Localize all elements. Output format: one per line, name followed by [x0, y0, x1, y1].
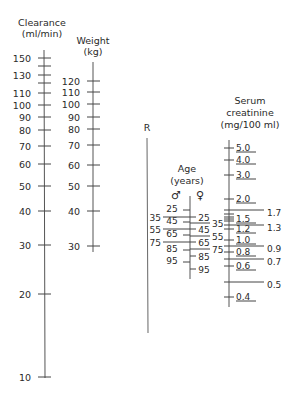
creatinine-tick-label: 4.0: [236, 155, 251, 165]
weight-tick-label: 80: [68, 124, 80, 135]
male-symbol-icon: ♂: [171, 189, 181, 202]
age-female-label: 85: [198, 252, 209, 262]
clearance-tick-label: 100: [13, 100, 31, 111]
clearance-axis: [44, 50, 45, 378]
weight-tick-label: 40: [68, 206, 80, 217]
weight-tick-label: 50: [68, 181, 80, 192]
r-line-label: R: [144, 122, 151, 133]
clearance-tick-label: 50: [19, 181, 31, 192]
nomogram: Clearance (ml/min) Weight (kg) R Age (ye…: [0, 0, 284, 395]
age-female-label: 95: [198, 265, 209, 275]
creatinine-tick-label: 1.5: [236, 214, 250, 224]
age-male-label: 95: [166, 256, 177, 266]
creatinine-title-2: creatinine: [226, 107, 274, 118]
creatinine-tick-label: 5.0: [236, 143, 251, 153]
clearance-tick-label: 70: [19, 141, 31, 152]
weight-tick-label: 100: [62, 99, 80, 110]
age-title: Age: [178, 163, 197, 174]
age-female-label: 45: [198, 225, 209, 235]
creatinine-tick-label: 0.5: [267, 280, 281, 290]
clearance-tick-label: 130: [13, 70, 31, 81]
clearance-tick-label: 90: [19, 112, 31, 123]
clearance-tick-label: 150: [13, 53, 31, 64]
weight-tick-label: 70: [68, 140, 80, 151]
clearance-tick-label: 20: [19, 289, 31, 300]
age-female-label: 25: [198, 213, 209, 223]
creatinine-tick-label: 1.3: [267, 223, 281, 233]
creatinine-tick-label: 3.0: [236, 170, 251, 180]
creatinine-tick-label: 0.6: [236, 261, 251, 271]
clearance-tick-label: 60: [19, 159, 31, 170]
clearance-tick-label: 110: [13, 88, 31, 99]
clearance-unit: (ml/min): [22, 28, 62, 39]
age-unit: (years): [170, 175, 204, 186]
age-male-label: 65: [166, 229, 177, 239]
age-male-label: 85: [166, 244, 177, 254]
creatinine-tick-label: 0.9: [267, 244, 282, 254]
creatinine-title: Serum: [234, 95, 265, 106]
creatinine-tick-label: 1.7: [267, 208, 281, 218]
creatinine-tick-label: 0.7: [267, 257, 281, 267]
weight-unit: (kg): [84, 46, 103, 57]
clearance-tick-label: 80: [19, 125, 31, 136]
weight-tick-label: 90: [68, 112, 80, 123]
age-female-label: 75: [212, 245, 223, 255]
age-male-label: 25: [166, 204, 177, 214]
creatinine-tick-label: 0.8: [236, 247, 251, 257]
weight-tick-label: 60: [68, 160, 80, 171]
r-axis: [147, 138, 148, 333]
age-female-label: 65: [198, 238, 209, 248]
age-female-label: 55: [212, 232, 223, 242]
clearance-tick-label: 10: [19, 372, 31, 383]
age-male-label: 55: [150, 225, 161, 235]
age-male-label: 35: [150, 213, 161, 223]
creatinine-tick-label: 2.0: [236, 194, 251, 204]
creatinine-tick-label: 1.0: [236, 235, 251, 245]
age-male-label: 75: [150, 238, 161, 248]
creatinine-unit: (mg/100 ml): [221, 119, 280, 130]
weight-title: Weight: [76, 35, 109, 46]
clearance-tick-label: 40: [19, 206, 31, 217]
creatinine-tick-label: 0.4: [236, 292, 251, 302]
weight-tick-label: 120: [62, 76, 80, 87]
female-symbol-icon: ♀: [196, 189, 204, 202]
nomogram-graphic: Clearance (ml/min) Weight (kg) R Age (ye…: [0, 0, 284, 395]
clearance-tick-label: 30: [19, 240, 31, 251]
weight-tick-label: 30: [68, 241, 80, 252]
age-female-label: 35: [212, 219, 223, 229]
weight-tick-label: 110: [62, 87, 80, 98]
clearance-title: Clearance: [18, 17, 66, 28]
